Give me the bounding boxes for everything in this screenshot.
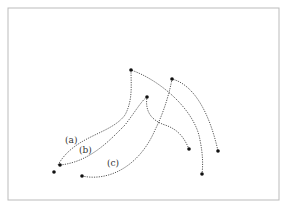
point-marker [187, 147, 191, 151]
diagram-canvas: (a)(b)(c) [0, 0, 284, 207]
point-marker [58, 163, 62, 167]
point-marker [129, 68, 133, 72]
curve-label-a: (a) [65, 135, 77, 145]
point-marker [52, 170, 56, 174]
point-marker [80, 174, 84, 178]
point-marker [170, 77, 174, 81]
point-marker [200, 172, 204, 176]
curve-label-c: (c) [107, 158, 119, 168]
figure-frame [8, 8, 279, 200]
curve-label-b: (b) [79, 145, 92, 155]
point-marker [216, 149, 220, 153]
point-marker [145, 95, 149, 99]
